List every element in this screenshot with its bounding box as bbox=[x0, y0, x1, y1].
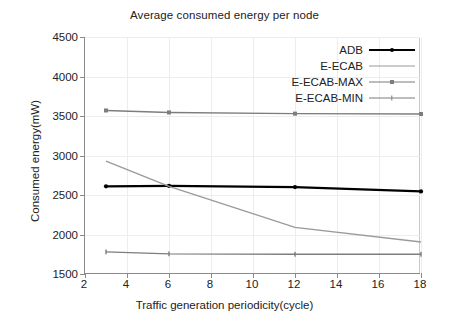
legend-item-adb[interactable]: ADB bbox=[291, 42, 415, 57]
data-point-marker bbox=[104, 108, 108, 112]
data-point-marker bbox=[293, 112, 297, 116]
x-tick-label: 14 bbox=[316, 278, 356, 290]
x-tick-label: 10 bbox=[232, 278, 272, 290]
x-tick-label: 18 bbox=[400, 278, 440, 290]
legend-line-sample bbox=[369, 76, 415, 88]
data-point-marker bbox=[419, 189, 423, 193]
x-axis-tick-labels: 24681012141618 bbox=[84, 278, 420, 296]
data-point-marker bbox=[294, 252, 295, 257]
series-line-e-ecab-max bbox=[106, 110, 421, 114]
series-line-adb bbox=[106, 186, 421, 192]
chart-legend: ADBE-ECABE-ECAB-MAXE-ECAB-MIN bbox=[287, 40, 417, 107]
x-tick-label: 2 bbox=[64, 278, 104, 290]
legend-line-sample bbox=[369, 44, 415, 56]
legend-label: E-ECAB-MAX bbox=[291, 76, 363, 88]
legend-marker bbox=[391, 95, 392, 100]
data-point-marker bbox=[167, 110, 171, 114]
legend-label: E-ECAB-MIN bbox=[295, 92, 363, 104]
legend-marker bbox=[390, 80, 394, 84]
legend-marker bbox=[390, 48, 394, 52]
y-tick-label: 4500 bbox=[32, 31, 78, 43]
data-point-marker bbox=[104, 184, 108, 188]
legend-line-sample bbox=[369, 60, 415, 72]
series-line-e-ecab bbox=[106, 161, 421, 242]
chart-figure: Average consumed energy per node Consume… bbox=[0, 0, 449, 331]
data-point-marker bbox=[420, 252, 421, 257]
y-tick-label: 4000 bbox=[32, 71, 78, 83]
x-tick-label: 8 bbox=[190, 278, 230, 290]
series-line-e-ecab-min bbox=[106, 252, 421, 254]
legend-item-e-ecab[interactable]: E-ECAB bbox=[291, 58, 415, 73]
chart-title: Average consumed energy per node bbox=[0, 9, 449, 21]
x-tick-label: 6 bbox=[148, 278, 188, 290]
legend-label: E-ECAB bbox=[320, 60, 363, 72]
plot-area: ADBE-ECABE-ECAB-MAXE-ECAB-MIN bbox=[84, 37, 420, 274]
y-tick-label: 3500 bbox=[32, 110, 78, 122]
y-tick-label: 2500 bbox=[32, 189, 78, 201]
legend-line-sample bbox=[369, 92, 415, 104]
y-tick-label: 3000 bbox=[32, 150, 78, 162]
gridline-vertical bbox=[421, 37, 422, 273]
legend-label: ADB bbox=[339, 44, 363, 56]
x-tick-label: 12 bbox=[274, 278, 314, 290]
data-point-marker bbox=[168, 251, 169, 256]
data-point-marker bbox=[419, 112, 423, 116]
data-point-marker bbox=[293, 185, 297, 189]
x-tick-label: 16 bbox=[358, 278, 398, 290]
legend-item-e-ecab-min[interactable]: E-ECAB-MIN bbox=[291, 90, 415, 105]
legend-line bbox=[369, 65, 415, 66]
legend-item-e-ecab-max[interactable]: E-ECAB-MAX bbox=[291, 74, 415, 89]
x-axis-title: Traffic generation periodicity(cycle) bbox=[0, 299, 449, 311]
data-point-marker bbox=[105, 249, 106, 254]
x-tick-label: 4 bbox=[106, 278, 146, 290]
y-tick-label: 2000 bbox=[32, 229, 78, 241]
y-axis-tick-labels: 1500200025003000350040004500 bbox=[32, 37, 78, 274]
